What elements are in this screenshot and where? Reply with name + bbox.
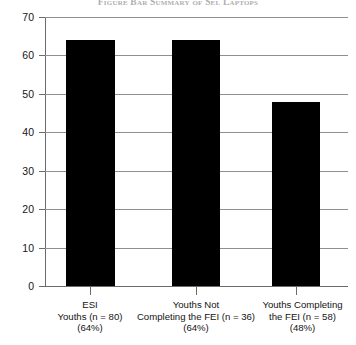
x-axis-label-youths-completing-fei-line2: the FEI (n = 58) [252,311,353,323]
y-tick-50 [39,94,45,95]
x-axis-label-esi-youths-line1: ESI [36,299,144,311]
y-axis-label-70: 70 [4,12,34,22]
x-axis-label-youths-not-completing-fei-line3: (64%) [131,322,261,334]
bar-youths-not-completing-fei [172,40,220,286]
chart-title-text: Figure Bar Summary of Sel Laptops [0,0,356,8]
x-tick-esi-youths [90,287,91,295]
y-tick-60 [39,55,45,56]
x-axis-label-youths-completing-fei: Youths Completing the FEI (n = 58) (48%) [252,299,353,334]
x-axis-label-youths-completing-fei-line3: (48%) [252,322,353,334]
x-tick-youths-not-completing-fei [196,287,197,295]
y-axis-label-0: 0 [4,281,34,291]
y-axis-label-40: 40 [4,127,34,137]
x-tick-youths-completing-fei [296,287,297,295]
y-axis-label-30: 30 [4,166,34,176]
chart-title: Figure Bar Summary of Sel Laptops [0,0,356,8]
y-axis-label-10: 10 [4,243,34,253]
x-axis-label-esi-youths-line3: (64%) [36,322,144,334]
y-tick-40 [39,132,45,133]
x-axis-label-youths-not-completing-fei-line2: Completing the FEI (n = 36) [131,311,261,323]
y-tick-30 [39,171,45,172]
x-axis-label-esi-youths-line2: Youths (n = 80) [36,311,144,323]
y-axis-label-20: 20 [4,204,34,214]
y-axis-label-60: 60 [4,50,34,60]
bar-youths-completing-fei [272,102,320,287]
bar-esi-youths [66,40,115,286]
y-tick-70 [39,17,45,18]
x-axis-label-youths-completing-fei-line1: Youths Completing [252,299,353,311]
y-tick-20 [39,209,45,210]
y-axis-label-50: 50 [4,89,34,99]
y-tick-0 [39,286,45,287]
x-axis-label-youths-not-completing-fei: Youths Not Completing the FEI (n = 36) (… [131,299,261,334]
bar-chart-figure: Figure Bar Summary of Sel Laptops 70 60 … [0,0,356,345]
gridline-70 [45,17,348,18]
x-axis-labels: ESI Youths (n = 80) (64%) Youths Not Com… [0,299,356,345]
y-tick-10 [39,248,45,249]
plot-area [45,17,348,286]
x-axis-label-esi-youths: ESI Youths (n = 80) (64%) [36,299,144,334]
x-axis-label-youths-not-completing-fei-line1: Youths Not [131,299,261,311]
